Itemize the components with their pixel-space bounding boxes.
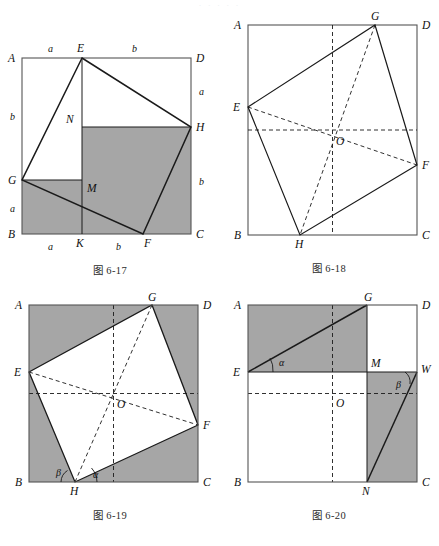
label-alpha-fig20: α <box>279 357 285 368</box>
label-A-fig20: A <box>233 299 242 311</box>
label-E-fig20: E <box>232 366 240 378</box>
label-B-fig19: B <box>15 476 22 488</box>
seglabel-bottom-left-fig17: a <box>48 241 53 252</box>
figure-6-17: A B C D E F G H K M N a b b a a b a b 图 … <box>0 40 220 260</box>
label-D-fig18: D <box>421 19 431 31</box>
figure-6-18-svg: A B C D E F G H O <box>219 10 439 260</box>
label-G-fig17: G <box>8 174 17 186</box>
label-W-fig20: W <box>421 363 432 375</box>
seglabel-top-right-fig17: b <box>132 43 137 54</box>
label-O-fig20: O <box>336 397 345 409</box>
label-A-fig19: A <box>14 299 23 311</box>
figure-6-20-svg: A B C D E G M N O W α β <box>219 292 439 507</box>
label-N-fig17: N <box>65 113 75 125</box>
label-E-fig17: E <box>76 42 84 54</box>
figure-6-18: A B C D E F G H O 图 6-18 <box>219 10 439 260</box>
caption-fig-6-19: 图 6-19 <box>0 507 220 522</box>
label-beta-fig19: β <box>55 467 61 478</box>
seglabel-left-upper-fig17: b <box>10 111 15 122</box>
caption-fig-6-17: 图 6-17 <box>0 262 220 277</box>
label-H-fig17: H <box>195 121 205 133</box>
label-F-fig18: F <box>421 159 430 171</box>
label-O-fig19: O <box>117 398 126 410</box>
figure-6-17-svg: A B C D E F G H K M N a b b a a b a b <box>0 40 220 260</box>
caption-fig-6-20: 图 6-20 <box>219 507 439 522</box>
seglabel-top-left-fig17: a <box>48 43 53 54</box>
caption-fig-6-18: 图 6-18 <box>219 260 439 275</box>
label-D-fig20: D <box>421 299 431 311</box>
label-B-fig17: B <box>8 228 15 240</box>
label-A-fig17: A <box>7 52 16 64</box>
label-G-fig19: G <box>148 292 157 303</box>
label-B-fig20: B <box>234 476 241 488</box>
label-H-fig18: H <box>294 238 304 250</box>
label-M-fig20: M <box>370 357 382 369</box>
label-F-fig17: F <box>143 237 152 249</box>
seglabel-right-upper-fig17: a <box>199 86 204 97</box>
label-F-fig19: F <box>202 419 211 431</box>
label-C-fig18: C <box>422 229 430 241</box>
dashed-diagonal-EF-fig18 <box>248 107 417 165</box>
label-D-fig19: D <box>202 299 212 311</box>
seglabel-right-lower-fig17: b <box>199 176 204 187</box>
label-E-fig18: E <box>232 101 240 113</box>
label-G-fig18: G <box>371 10 380 22</box>
label-C-fig20: C <box>422 476 430 488</box>
label-M-fig17: M <box>86 182 98 194</box>
label-A-fig18: A <box>233 19 242 31</box>
figure-sheet: · · · · · A B C D E F G H K <box>0 0 439 546</box>
seglabel-left-lower-fig17: a <box>10 203 15 214</box>
figure-6-20: A B C D E G M N O W α β 图 6-20 <box>219 292 439 507</box>
label-E-fig19: E <box>13 366 21 378</box>
figure-6-19-svg: A B C D E F G H O β α <box>0 292 220 507</box>
label-O-fig18: O <box>336 135 345 147</box>
label-C-fig19: C <box>203 476 211 488</box>
label-N-fig20: N <box>361 485 371 497</box>
cut-off-header-text: · · · · · <box>0 0 439 9</box>
label-C-fig17: C <box>196 228 204 240</box>
label-D-fig17: D <box>195 52 205 64</box>
figure-6-19: A B C D E F G H O β α 图 6-19 <box>0 292 220 507</box>
label-beta-fig20: β <box>395 379 401 390</box>
label-G-fig20: G <box>364 292 373 303</box>
seglabel-bottom-mid-fig17: b <box>116 241 121 252</box>
label-H-fig19: H <box>69 485 79 497</box>
label-B-fig18: B <box>234 229 241 241</box>
label-alpha-fig19: α <box>93 469 99 480</box>
label-K-fig17: K <box>75 237 85 249</box>
